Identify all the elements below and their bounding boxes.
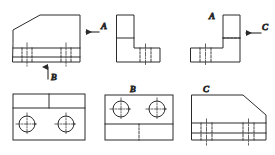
arrow-c-label: C: [262, 22, 269, 32]
top-view-plan: [13, 94, 85, 140]
view-c-hidden-edges: [201, 123, 254, 140]
view-c-projection: [192, 95, 266, 140]
view-a-label: A: [208, 11, 215, 21]
front-view-hidden-edges: [22, 48, 71, 62]
view-a-projection: [191, 15, 240, 62]
drawing-sheet: A B A: [0, 0, 275, 155]
front-view-outline: [13, 15, 80, 62]
technical-drawing-canvas: A B A: [0, 0, 275, 155]
front-view: [13, 15, 80, 62]
arrow-b-label: B: [51, 72, 57, 82]
view-c-label: C: [203, 84, 210, 94]
front-view-center-lines: [27, 43, 66, 67]
view-a-hidden-edges: [200, 38, 240, 62]
view-b-label: B: [130, 84, 136, 94]
arrow-a-label: A: [100, 21, 107, 31]
l-shaped-side-view: [117, 15, 160, 62]
